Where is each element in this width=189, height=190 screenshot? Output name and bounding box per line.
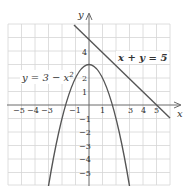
axes: [7, 13, 181, 186]
x-tick-labels: −5 −4 −3 −1 1 3 4 5: [13, 106, 159, 115]
line-equation-label: x + y = 5: [117, 52, 167, 63]
x-tick-label: 5: [154, 106, 159, 115]
y-tick-label: −4: [79, 155, 91, 164]
parabola-eq-main: y = 3 − x: [21, 72, 69, 83]
y-tick-label: 4: [82, 48, 87, 57]
x-axis-label: x: [177, 108, 183, 119]
parabola-equation-label: y = 3 − x2: [21, 71, 74, 83]
x-tick-label: 3: [128, 106, 133, 115]
x-tick-label: −1: [69, 106, 81, 115]
line-x-plus-y-eq-5: [74, 25, 170, 118]
y-tick-label: −5: [79, 169, 91, 178]
y-tick-label: −1: [79, 115, 91, 124]
y-axis-label: y: [77, 9, 84, 20]
x-tick-label: 1: [100, 106, 105, 115]
y-tick-label: 1: [82, 88, 87, 97]
x-tick-label: −3: [41, 106, 53, 115]
x-tick-label: 4: [141, 106, 146, 115]
x-tick-label: −4: [27, 106, 39, 115]
y-tick-label: −2: [79, 128, 91, 137]
x-tick-label: −5: [13, 106, 25, 115]
y-tick-label: 2: [82, 74, 87, 83]
parabola-eq-exponent: 2: [68, 71, 74, 79]
graph: y x −5 −4 −3 −1 1 3 4 5 4 2 1 −1 −2 −3 −…: [0, 0, 189, 190]
y-tick-label: −3: [79, 142, 91, 151]
